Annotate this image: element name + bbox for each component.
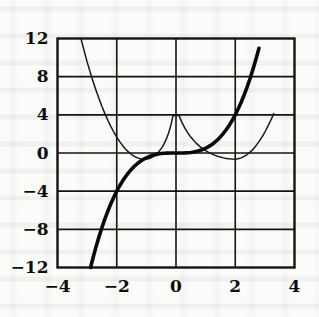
y-tick-label: −12 [11,259,49,276]
cubic-curve [91,48,259,267]
thin-curve [81,39,274,160]
x-tick-label: 0 [156,278,196,295]
curve-thick-group [91,48,259,267]
x-tick-label: 2 [215,278,255,295]
y-tick-label: 8 [37,68,49,85]
y-tick-label: 12 [25,30,49,47]
x-tick-label: −2 [97,278,137,295]
curve-thin-group [81,39,274,160]
math-figure: −12−8−404812 −4−2024 [0,0,319,317]
x-tick-label: −4 [38,278,78,295]
y-tick-label: −4 [22,183,48,200]
y-tick-label: 4 [37,106,49,123]
x-tick-label: 4 [275,278,315,295]
y-tick-label: 0 [37,145,49,162]
y-tick-label: −8 [22,221,48,238]
